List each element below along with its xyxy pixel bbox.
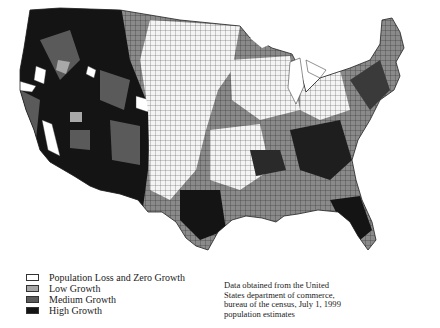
legend-item-loss-zero: Population Loss and Zero Growth (26, 272, 185, 283)
legend-label: High Growth (49, 305, 102, 316)
legend-label: Low Growth (49, 283, 100, 294)
legend-swatch-low (26, 285, 39, 292)
legend-swatch-high (26, 307, 39, 314)
legend-item-low: Low Growth (26, 283, 185, 294)
legend-swatch-loss-zero (26, 274, 39, 281)
legend-swatch-medium (26, 296, 39, 303)
legend-item-high: High Growth (26, 305, 185, 316)
source-note: Data obtained from the United States dep… (224, 281, 342, 319)
map-legend: Population Loss and Zero Growth Low Grow… (26, 272, 185, 316)
legend-label: Medium Growth (49, 294, 116, 305)
legend-item-medium: Medium Growth (26, 294, 185, 305)
legend-label: Population Loss and Zero Growth (49, 272, 185, 283)
